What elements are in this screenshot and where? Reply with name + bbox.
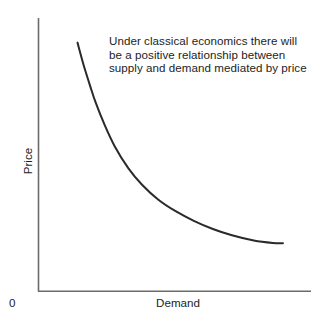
chart-canvas: Under classical economics there will be … [0,0,323,327]
y-axis-label: Price [17,141,39,181]
x-axis-label: Demand [128,296,228,309]
origin-label: 0 [9,296,15,309]
annotation-text: Under classical economics there will be … [109,34,307,75]
